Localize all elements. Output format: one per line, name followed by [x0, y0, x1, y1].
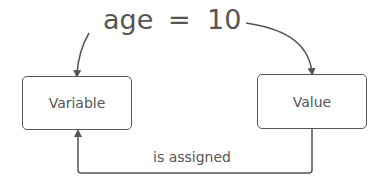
- variable-box-label: Variable: [49, 95, 106, 111]
- value-text: 10: [207, 4, 241, 36]
- value-box: Value: [257, 74, 367, 129]
- value-box-label: Value: [293, 94, 331, 110]
- assignment-operator-text: =: [168, 4, 191, 36]
- variable-box: Variable: [22, 76, 132, 130]
- variable-name-text: age: [103, 4, 153, 36]
- arrow-age-to-variable: [77, 33, 89, 74]
- arrow-ten-to-value: [246, 23, 312, 72]
- is-assigned-label: is assigned: [153, 149, 231, 165]
